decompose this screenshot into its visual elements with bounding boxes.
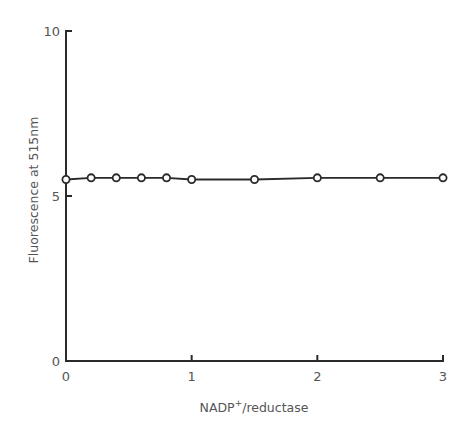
y-tick-label: 5 [52,189,60,204]
x-axis-label: NADP+/reductase [200,398,309,415]
data-point-marker [113,174,120,181]
x-axis-label-sup: + [235,398,243,408]
data-point-marker [88,174,95,181]
data-point-marker [163,174,170,181]
y-ticks: 0510 [43,24,72,369]
data-point-marker [439,174,446,181]
data-series [62,174,446,183]
x-tick-label: 1 [188,369,196,384]
x-tick-label: 2 [313,369,321,384]
data-point-marker [314,174,321,181]
y-tick-label: 0 [52,354,60,369]
x-ticks: 0123 [62,355,447,384]
x-tick-label: 3 [439,369,447,384]
y-tick-label: 10 [43,24,60,39]
data-point-marker [138,174,145,181]
y-axis-label: Fluorescence at 515nm [26,117,41,264]
data-point-marker [377,174,384,181]
data-point-marker [62,176,69,183]
axes: 0510 0123 [43,24,447,384]
x-tick-label: 0 [62,369,70,384]
chart-figure: 0510 0123 Fluorescence at 515nm NADP+/re… [0,0,476,433]
x-axis-label-rest: /reductase [242,400,309,415]
data-point-marker [188,176,195,183]
data-point-marker [251,176,258,183]
x-axis-label-main: NADP [200,400,236,415]
